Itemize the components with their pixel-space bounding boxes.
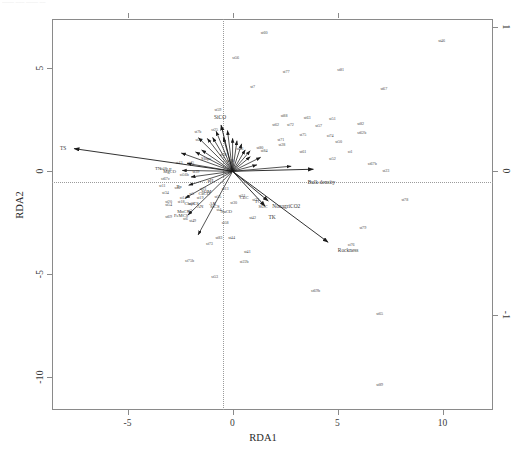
site-point-label: st52 (329, 155, 336, 160)
env-variable-label: FeMCS (174, 212, 188, 217)
y-tick-mark-right (493, 27, 498, 28)
site-point-label: st78 (401, 197, 408, 202)
site-point-label: st22 (196, 137, 203, 142)
x-tick-mark-top (338, 13, 339, 18)
site-point-label: st77 (283, 69, 290, 74)
x-tick-mark-top (128, 13, 129, 18)
biplot-arrow-label: Bulk density (308, 179, 335, 185)
site-point-label: st72 (287, 121, 294, 126)
site-point-label: st79 (359, 224, 366, 229)
env-variable-label: Slope (201, 155, 211, 160)
site-point-label: st45 (187, 160, 194, 165)
y-tick-label: 0 (35, 169, 45, 174)
y-tick-mark-right (493, 315, 498, 316)
y-tick-mark-right (493, 171, 498, 172)
x-axis-title: RDA1 (249, 432, 276, 443)
x-tick-mark (128, 410, 129, 415)
site-point-label: st42 (249, 214, 256, 219)
site-point-label: st7 (250, 83, 255, 88)
env-variable-label: ClayCS (184, 201, 198, 206)
site-point-label: st65 (376, 311, 383, 316)
site-point-label: st75 (300, 132, 307, 137)
site-point-label: st75b (185, 257, 194, 262)
site-point-label: st67 (380, 85, 387, 90)
x-tick-mark (233, 410, 234, 415)
site-point-label: st60 (261, 30, 268, 35)
site-point-label: st43 (176, 160, 183, 165)
site-point-label: st38 (220, 151, 227, 156)
env-variable-label: NaCO (220, 209, 232, 214)
site-point-label: st56b (180, 172, 189, 177)
site-point-label: st7b (195, 129, 202, 134)
site-point-label: st67c (161, 176, 170, 181)
biplot-arrow-label: Rockness (338, 247, 359, 253)
x-tick-mark-top (233, 13, 234, 18)
y-tick-label: -10 (35, 370, 45, 383)
site-point-label: st56 (232, 55, 239, 60)
y-tick-label-right: 1 (501, 25, 511, 30)
site-point-label: st39 (192, 169, 199, 174)
site-point-label: st11 (159, 182, 166, 187)
site-point-label: st13 (222, 185, 229, 190)
biplot-arrow-label: NonagriCO2 (272, 203, 300, 209)
x-tick-label: 0 (230, 418, 235, 428)
y-axis-title: RDA2 (14, 191, 25, 218)
site-point-label: st53 (211, 274, 218, 279)
biplot-arrow-label: TS (60, 145, 66, 151)
x-tick-mark (338, 410, 339, 415)
biplot-arrow-label: TK (269, 214, 276, 220)
site-point-label: st88 (281, 112, 288, 117)
site-point-label: st80 (256, 144, 263, 149)
cropped-header-artifact: —— ––– —— –– (2, 0, 114, 5)
site-point-label: st61 (300, 148, 307, 153)
site-point-label: st58 (222, 219, 229, 224)
site-point-label: st55 (214, 193, 221, 198)
site-point-label: st5 (189, 190, 194, 195)
x-tick-label: 5 (335, 418, 340, 428)
x-tick-mark (443, 410, 444, 415)
env-variable-label: MgCO (163, 169, 176, 174)
site-point-label: st70 (227, 157, 234, 162)
env-variable-label: pH (208, 177, 214, 182)
site-point-label: st28 (279, 141, 286, 146)
site-point-label: st62b (357, 130, 366, 135)
site-point-label: st74 (327, 133, 334, 138)
site-point-label: st50 (335, 139, 342, 144)
env-variable-label: Tp (176, 183, 181, 188)
zero-horizontal-reference-line (52, 182, 493, 183)
y-tick-mark (47, 274, 52, 275)
site-point-label: st63 (304, 114, 311, 119)
site-point-label: st51 (329, 115, 336, 120)
site-point-label: st67b (368, 161, 377, 166)
site-point-label: st57 (315, 122, 322, 127)
site-point-label: st69 (165, 213, 172, 218)
site-point-label: st76 (348, 242, 355, 247)
site-point-label: st41 (244, 248, 251, 253)
y-tick-label-right: -1 (501, 311, 511, 319)
y-tick-mark (47, 171, 52, 172)
env-variable-label: CEC (240, 195, 249, 200)
site-point-label: st36 (237, 145, 244, 150)
site-point-label: st23 (382, 168, 389, 173)
env-variable-label: CaCO (199, 190, 210, 195)
site-point-label: st44 (228, 235, 235, 240)
y-tick-mark (47, 68, 52, 69)
site-point-label: st22b (240, 258, 249, 263)
site-point-label: st1 (348, 148, 353, 153)
site-point-label: st25 (211, 127, 218, 132)
y-tick-label: 5 (35, 66, 45, 71)
site-point-label: st81 (337, 67, 344, 72)
site-point-label: st83 (216, 235, 223, 240)
site-point-label: st89 (376, 382, 383, 387)
x-tick-label: -5 (123, 418, 131, 428)
biplot-arrow-label: SiCO (214, 114, 226, 120)
y-tick-label: -5 (35, 270, 45, 278)
y-tick-label-right: 0 (501, 169, 511, 174)
site-point-label: st34 (162, 189, 169, 194)
env-variable-label: TN (155, 166, 161, 171)
site-point-label: st46 (438, 37, 445, 42)
x-tick-label: 10 (438, 418, 448, 428)
site-point-label: st82 (357, 120, 364, 125)
site-point-label: st30 (230, 200, 237, 205)
site-point-label: st69b (311, 287, 320, 292)
